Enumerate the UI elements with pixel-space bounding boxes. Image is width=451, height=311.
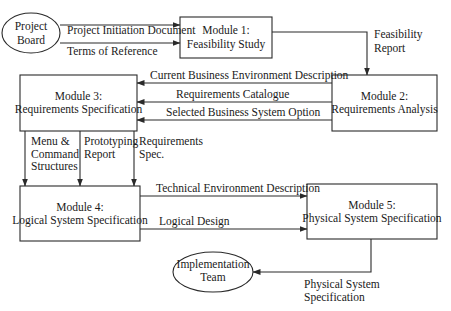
project-board-node: Project Board	[2, 13, 60, 53]
module2-node: Module 2: Requirements Analysis	[331, 75, 438, 131]
module3-node: Module 3: Requirements Specification	[15, 75, 143, 131]
edge-label-line1: Feasibility	[374, 28, 423, 41]
edge-label-line3: Structures	[31, 160, 78, 172]
implementation-team-label-line2: Team	[200, 271, 225, 283]
module3-label-line2: Requirements Specification	[15, 103, 143, 116]
edge-feasibility-report: Feasibility Report	[272, 28, 423, 75]
implementation-team-label-line1: Implementation	[177, 258, 250, 271]
module2-label-line1: Module 2:	[361, 90, 409, 102]
module5-label-line2: Physical System Specification	[302, 212, 442, 225]
edge-label-line2: Report	[374, 42, 406, 55]
edge-label-line1: Requirements	[139, 135, 203, 148]
project-board-label-line2: Board	[17, 34, 45, 46]
edge-requirements-catalogue: Requirements Catalogue	[137, 88, 332, 102]
module3-label-line1: Module 3:	[55, 90, 103, 102]
edge-label: Current Business Environment Description	[150, 69, 349, 82]
edge-label: Requirements Catalogue	[176, 88, 289, 101]
edge-label-line2: Spec.	[139, 148, 164, 161]
module4-node: Module 4: Logical System Specification	[12, 186, 148, 241]
module4-label-line1: Module 4:	[56, 201, 104, 213]
implementation-team-node: Implementation Team	[173, 252, 253, 292]
module2-label-line2: Requirements Analysis	[331, 103, 438, 116]
edge-label-line2: Report	[84, 148, 116, 161]
edge-menu-command-structures: Menu & Command Structures	[25, 131, 79, 186]
project-board-label-line1: Project	[15, 20, 48, 33]
edge-selected-business-system-option: Selected Business System Option	[137, 106, 332, 120]
edge-physical-system-specification: Physical System Specification	[253, 239, 380, 304]
edge-project-initiation-document: Project Initiation Document	[60, 24, 196, 37]
ssadm-module-diagram: Project Board Module 1: Feasibility Stud…	[0, 0, 451, 311]
module1-label-line1: Module 1:	[202, 24, 250, 36]
edge-label: Selected Business System Option	[166, 106, 321, 119]
edge-requirements-spec: Requirements Spec.	[134, 131, 203, 186]
edge-line	[253, 239, 371, 272]
edge-current-business-environment-description: Current Business Environment Description	[137, 69, 349, 83]
edge-technical-environment-description: Technical Environment Description	[140, 182, 320, 196]
edge-label: Project Initiation Document	[67, 24, 196, 37]
edge-logical-design: Logical Design	[140, 215, 307, 229]
edge-terms-of-reference: Terms of Reference	[60, 43, 180, 57]
edge-label-line2: Command	[31, 148, 79, 160]
edge-label: Logical Design	[159, 215, 230, 228]
project-board-ellipse	[2, 13, 60, 53]
module4-label-line2: Logical System Specification	[12, 214, 148, 227]
edge-label-line1: Prototyping	[84, 135, 139, 148]
edge-label-line1: Menu &	[31, 135, 70, 147]
edge-label-line2: Specification	[304, 291, 365, 304]
module5-node: Module 5: Physical System Specification	[302, 184, 442, 239]
edge-label: Technical Environment Description	[156, 182, 320, 195]
edge-label: Terms of Reference	[67, 45, 158, 57]
edge-label-line1: Physical System	[304, 278, 380, 291]
module5-label-line1: Module 5:	[348, 199, 396, 211]
edge-prototyping-report: Prototyping Report	[80, 131, 139, 186]
module1-label-line2: Feasibility Study	[187, 38, 266, 51]
